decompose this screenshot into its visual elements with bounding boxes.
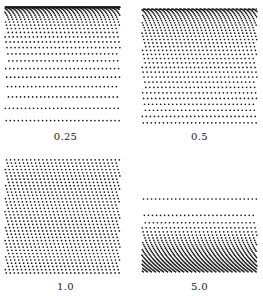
point-distribution-plot [141,155,258,273]
point-distribution-plot [141,8,258,126]
panel-label: 1.0 [0,281,131,292]
panel-exponent-5-0 [141,155,258,273]
panel-label: 5.0 [134,281,263,292]
panel-label: 0.25 [0,131,131,142]
panel-exponent-0-25 [4,6,121,126]
point-distribution-plot [4,158,121,275]
panel-exponent-1-0 [4,158,121,275]
panel-exponent-0-5 [141,8,258,126]
panel-label: 0.5 [134,131,263,142]
point-distribution-plot [4,6,121,126]
